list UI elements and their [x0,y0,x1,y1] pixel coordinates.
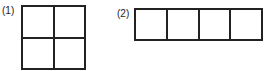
grid-cell [199,9,231,40]
figure-2-label: (2) [117,9,129,19]
grid-cell [54,38,86,70]
grid-cell [22,6,54,38]
figure-1-label: (1) [2,6,14,16]
grid-cell [135,9,167,40]
grid-cell [167,9,199,40]
grid-cell [54,6,86,38]
figure-2-grid [134,8,263,41]
grid-cell [230,9,262,40]
figure-1-grid [21,5,86,70]
grid-cell [22,38,54,70]
